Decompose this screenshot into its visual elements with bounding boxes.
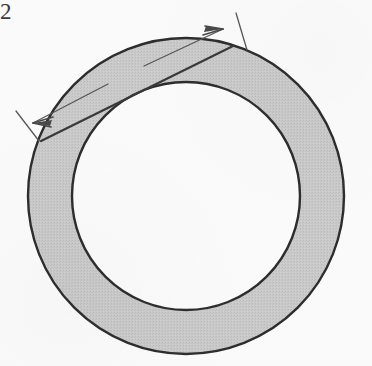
chord-length-label: 2 bbox=[0, 0, 12, 23]
figure-root: 2 bbox=[0, 0, 372, 366]
annulus-diagram-svg bbox=[0, 0, 372, 366]
